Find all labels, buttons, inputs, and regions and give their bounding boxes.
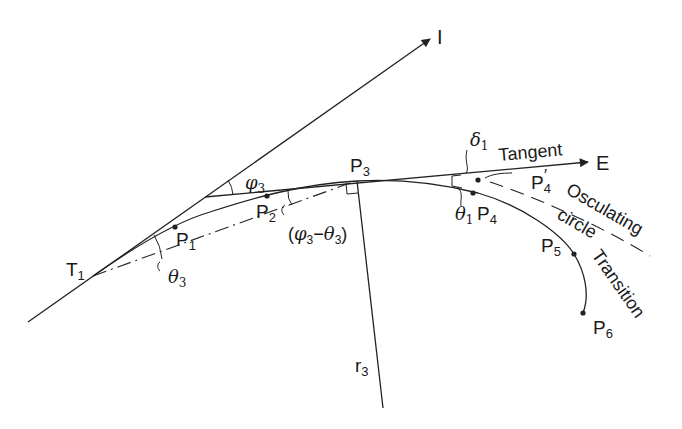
theta3-pointer bbox=[158, 262, 160, 271]
label-p4: P4 bbox=[477, 203, 497, 227]
label-p5: P5 bbox=[541, 235, 561, 259]
phi3-angle-arc bbox=[228, 180, 233, 195]
point-p4 bbox=[470, 190, 475, 195]
label-theta3: θ3 bbox=[168, 266, 186, 290]
point-p6 bbox=[580, 310, 585, 315]
point-p5 bbox=[571, 251, 576, 256]
label-e: E bbox=[596, 152, 609, 174]
label-r3: r3 bbox=[355, 355, 369, 379]
label-tangent: Tangent bbox=[498, 139, 564, 165]
label-p1: P1 bbox=[176, 229, 196, 253]
transition-curve-diagram: I E T1 P1 P2 P3 P4 P4′ P5 P6 r3 φ3 θ3 θ1… bbox=[0, 0, 682, 429]
label-delta1: δ1 bbox=[470, 129, 488, 153]
right-angle-marker-p3 bbox=[346, 183, 358, 194]
label-i: I bbox=[437, 26, 443, 48]
label-p2: P2 bbox=[256, 201, 276, 225]
label-p4-prime: P4′ bbox=[531, 167, 551, 196]
label-transition: Transition bbox=[588, 246, 649, 322]
delta1-pointer bbox=[466, 150, 467, 173]
chord-line bbox=[93, 183, 350, 276]
label-phi3: φ3 bbox=[245, 172, 265, 196]
right-angle-marker-p4 bbox=[452, 175, 462, 188]
label-theta1: θ1 bbox=[455, 203, 473, 227]
point-p4-prime bbox=[475, 177, 480, 182]
label-p3: P3 bbox=[350, 155, 370, 179]
theta3-angle-arc bbox=[154, 235, 162, 259]
osculating-tick bbox=[485, 173, 512, 178]
label-t1: T1 bbox=[66, 259, 85, 283]
phi-minus-theta-pointer bbox=[282, 205, 285, 215]
label-phi-minus-theta: (φ3−θ3) bbox=[288, 223, 347, 247]
phi-minus-theta-arc bbox=[288, 191, 292, 205]
label-p6: P6 bbox=[593, 317, 613, 341]
